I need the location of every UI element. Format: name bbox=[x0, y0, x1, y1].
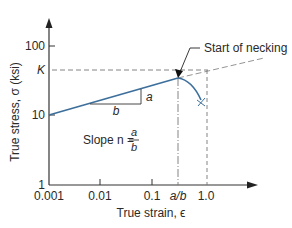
triangle-b-label: b bbox=[113, 104, 120, 118]
x-tick-0001: 0.001 bbox=[34, 189, 64, 203]
y-axis-label: True stress, σ (ksi) bbox=[8, 62, 22, 162]
reference-lines bbox=[52, 58, 264, 185]
y-tick-100: 100 bbox=[25, 39, 45, 53]
x-axis-label: True strain, ϵ bbox=[117, 206, 186, 220]
slope-numerator: a bbox=[131, 126, 137, 138]
necking-label: Start of necking bbox=[204, 41, 287, 55]
y-axis-arrow-icon bbox=[46, 18, 53, 28]
x-axis-arrow-icon bbox=[247, 182, 258, 189]
stress-strain-chart: 100 K 10 1 0.001 0.01 0.1 a/b 1.0 True s… bbox=[0, 0, 292, 228]
y-tick-10: 10 bbox=[32, 108, 46, 122]
x-ticks bbox=[100, 179, 152, 185]
y-ticks bbox=[49, 46, 55, 115]
x-tick-1: 1.0 bbox=[198, 189, 215, 203]
triangle-a-label: a bbox=[146, 90, 153, 104]
stress-strain-curve bbox=[49, 78, 205, 115]
x-tick-01: 0.1 bbox=[144, 189, 161, 203]
slope-label: Slope n = bbox=[83, 133, 134, 147]
slope-denominator: b bbox=[131, 141, 137, 153]
extrapolation-dashed-line bbox=[178, 58, 264, 78]
y-tick-k: K bbox=[37, 63, 46, 77]
x-tick-001: 0.01 bbox=[88, 189, 112, 203]
x-tick-ab: a/b bbox=[170, 189, 187, 203]
